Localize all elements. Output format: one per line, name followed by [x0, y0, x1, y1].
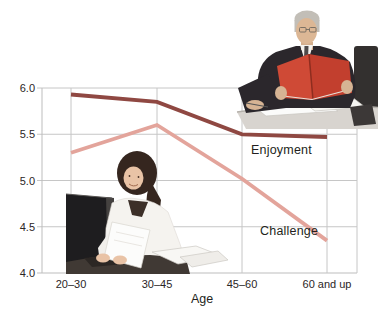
- man-hand: [275, 86, 287, 100]
- x-tick-label: 60 and up: [303, 278, 352, 290]
- man-hand: [341, 80, 353, 94]
- y-tick-label: 6.0: [20, 82, 35, 94]
- enjoyment-series-label: Enjoyment: [251, 143, 312, 157]
- x-axis-title: Age: [160, 292, 244, 306]
- photo-woman-at-computer: [64, 147, 230, 274]
- x-tick-label: 45–60: [227, 278, 258, 290]
- challenge-series-label: Challenge: [260, 224, 318, 238]
- woman-hand: [113, 256, 127, 265]
- x-tick-label: 30–45: [142, 278, 173, 290]
- woman-hand: [96, 254, 110, 263]
- y-tick-label: 5.0: [20, 175, 35, 187]
- x-tick-label: 20–30: [56, 278, 87, 290]
- y-tick-label: 4.0: [20, 267, 35, 279]
- age-enjoyment-challenge-figure: 6.05.55.04.54.020–3030–4545–6060 and up: [0, 0, 378, 323]
- telephone-icon: [350, 104, 376, 126]
- y-tick-label: 5.5: [20, 128, 35, 140]
- photo-man-reading-folder: [230, 4, 378, 129]
- y-tick-label: 4.5: [20, 221, 35, 233]
